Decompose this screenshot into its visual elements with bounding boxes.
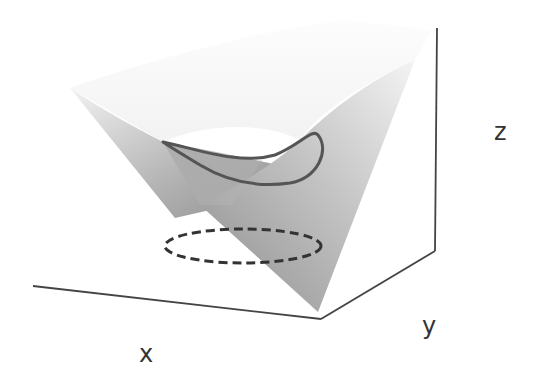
z-axis-line (435, 28, 437, 251)
x-axis-line (33, 286, 321, 319)
z-axis-label: z (494, 120, 507, 144)
y-axis-label: y (422, 314, 436, 338)
3d-diagram (0, 0, 539, 383)
y-axis-line (321, 251, 435, 319)
x-axis-label: x (139, 342, 153, 366)
